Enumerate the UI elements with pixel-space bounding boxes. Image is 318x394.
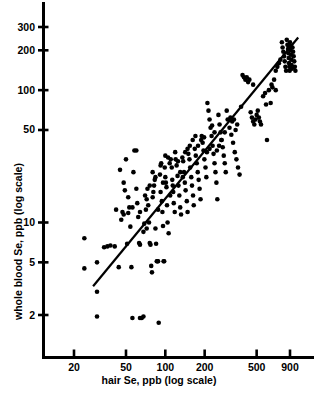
data-point	[219, 138, 224, 143]
y-tick-label: 300	[5, 21, 35, 33]
data-point	[171, 201, 176, 206]
x-tick-label: 100	[145, 361, 185, 373]
data-point	[156, 259, 161, 264]
data-point	[149, 264, 154, 269]
data-point	[283, 65, 288, 70]
data-point	[116, 265, 121, 270]
data-point	[193, 134, 198, 139]
data-point	[121, 212, 126, 217]
x-tick-label: 20	[54, 361, 94, 373]
data-point	[214, 180, 219, 185]
data-point	[121, 180, 126, 185]
data-point	[152, 183, 157, 188]
data-point	[195, 170, 200, 175]
data-point	[206, 108, 211, 113]
data-point	[197, 186, 202, 191]
data-point	[108, 243, 113, 248]
data-point	[190, 138, 195, 143]
data-point	[205, 101, 210, 106]
data-point	[163, 175, 168, 180]
plot-area	[0, 0, 318, 394]
data-point	[144, 226, 149, 231]
data-point	[272, 77, 277, 82]
regression-line	[93, 37, 298, 286]
data-point	[160, 210, 165, 215]
data-point	[128, 224, 133, 229]
data-point	[213, 170, 218, 175]
data-point	[263, 91, 268, 96]
data-point	[178, 205, 183, 210]
data-point	[199, 138, 204, 143]
data-point	[180, 155, 185, 160]
data-point	[163, 153, 168, 158]
data-point	[159, 161, 164, 166]
data-point	[141, 230, 146, 235]
data-point	[273, 69, 278, 74]
data-point	[222, 161, 227, 166]
data-point	[147, 183, 152, 188]
data-point	[237, 172, 242, 177]
data-point	[233, 128, 238, 133]
data-point	[123, 188, 128, 193]
data-point	[229, 132, 234, 137]
data-point	[247, 77, 252, 82]
data-point	[183, 150, 188, 155]
data-point	[202, 157, 207, 162]
data-point	[187, 157, 192, 162]
data-point	[119, 217, 124, 222]
data-point	[234, 157, 239, 162]
data-point	[169, 165, 174, 170]
data-point	[164, 185, 169, 190]
data-point	[259, 122, 264, 127]
data-point	[235, 122, 240, 127]
data-point	[264, 102, 269, 107]
data-point	[191, 203, 196, 208]
data-point	[158, 172, 163, 177]
data-point	[190, 183, 195, 188]
data-point	[224, 108, 229, 113]
data-point	[146, 203, 151, 208]
data-point	[185, 199, 190, 204]
data-point	[181, 159, 186, 164]
data-point	[162, 165, 167, 170]
data-point	[191, 193, 196, 198]
data-point	[134, 186, 139, 191]
data-point	[252, 122, 257, 127]
data-point	[196, 143, 201, 148]
data-point	[138, 210, 143, 215]
data-point	[165, 203, 170, 208]
data-point	[227, 125, 232, 130]
x-tick-label: 900	[270, 361, 310, 373]
data-point	[178, 170, 183, 175]
data-point	[282, 59, 287, 64]
data-point	[215, 197, 220, 202]
data-point	[114, 207, 119, 212]
data-point-group	[82, 38, 298, 325]
data-point	[231, 141, 236, 146]
data-point	[196, 178, 201, 183]
data-point	[112, 244, 117, 249]
data-point	[154, 242, 159, 247]
data-point	[217, 143, 222, 148]
data-point	[189, 175, 194, 180]
data-point	[223, 170, 228, 175]
data-point	[161, 224, 166, 229]
data-point	[153, 175, 158, 180]
data-point	[150, 195, 155, 200]
data-point	[280, 45, 285, 50]
data-point	[251, 82, 256, 87]
data-point	[212, 130, 217, 135]
x-tick-label: 200	[185, 361, 225, 373]
data-point	[162, 259, 167, 264]
data-point	[222, 130, 227, 135]
data-point	[170, 178, 175, 183]
data-point	[209, 134, 214, 139]
data-point	[135, 201, 140, 206]
data-point	[216, 113, 221, 118]
data-point	[217, 122, 222, 127]
data-point	[212, 161, 217, 166]
data-point	[134, 148, 139, 153]
data-point	[292, 59, 297, 64]
data-point	[144, 197, 149, 202]
data-point	[165, 220, 170, 225]
